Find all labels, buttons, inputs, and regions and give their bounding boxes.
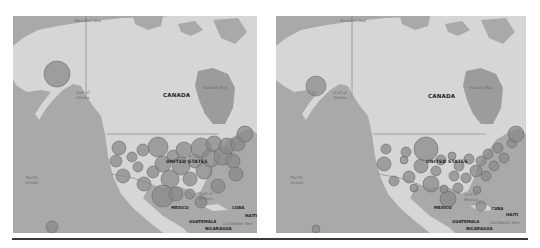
label-gulf-of-alaska: Gulf of Alaska xyxy=(328,91,352,100)
label-haiti: HAITI xyxy=(506,213,518,218)
label-pacific-ocean: Pacific Ocean xyxy=(286,176,308,185)
label-gulf-of-mexico: Gulf of Mexico xyxy=(460,193,482,202)
horizontal-divider xyxy=(12,238,528,240)
map-panel-left[interactable]: Beaufort Sea Gulf of Alaska Hudson Bay C… xyxy=(13,16,257,233)
label-guatemala: GUATEMALA xyxy=(189,220,216,225)
label-mexico: MEXICO xyxy=(434,206,452,211)
label-hudson-bay: Hudson Bay xyxy=(469,86,493,91)
label-haiti: HAITI xyxy=(245,214,257,219)
label-cuba: CUBA xyxy=(232,206,244,211)
label-united-states: UNITED STATES xyxy=(426,160,468,165)
label-canada: CANADA xyxy=(163,93,190,98)
label-caribbean-sea: Caribbean Sea xyxy=(490,221,519,226)
label-nicaragua: NICARAGUA xyxy=(205,227,232,232)
label-guatemala: GUATEMALA xyxy=(452,220,479,225)
label-beaufort-sea: Beaufort Sea xyxy=(340,19,366,24)
map-canvas xyxy=(276,16,526,233)
label-gulf-of-mexico: Gulf of Mexico xyxy=(195,192,217,201)
label-beaufort-sea: Beaufort Sea xyxy=(75,19,101,24)
label-canada: CANADA xyxy=(428,94,455,99)
label-mexico: MEXICO xyxy=(171,206,189,211)
label-pacific-ocean: Pacific Ocean xyxy=(21,176,43,185)
label-nicaragua: NICARAGUA xyxy=(466,227,493,232)
label-united-states: UNITED STATES xyxy=(166,160,208,165)
label-cuba: CUBA xyxy=(491,207,503,212)
map-panel-right[interactable]: Beaufort Sea Gulf of Alaska Hudson Bay C… xyxy=(276,16,526,233)
map-canvas xyxy=(13,16,257,233)
label-hudson-bay: Hudson Bay xyxy=(203,86,227,91)
label-gulf-of-alaska: Gulf of Alaska xyxy=(71,91,95,100)
